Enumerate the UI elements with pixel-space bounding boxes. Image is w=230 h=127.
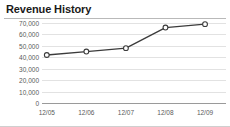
revenue-history-widget: Revenue History 010,00020,00030,00040,00…	[0, 0, 230, 127]
x-axis-tick-label: 12/06	[78, 109, 95, 116]
chart-plot-area: 010,00020,00030,00040,00050,00060,00070,…	[0, 18, 230, 126]
data-point-marker[interactable]	[124, 46, 129, 51]
widget-bottom-divider	[0, 126, 230, 127]
x-axis-tick-label: 12/07	[118, 109, 135, 116]
x-axis-tick-label: 12/09	[197, 109, 214, 116]
line-chart: 010,00020,00030,00040,00050,00060,00070,…	[0, 18, 230, 126]
data-point-marker[interactable]	[203, 22, 208, 27]
y-axis-tick-label: 0	[35, 100, 39, 107]
y-axis-tick-label: 50,000	[19, 43, 39, 50]
y-axis-tick-label: 20,000	[19, 77, 39, 84]
x-axis-tick-label: 12/05	[39, 109, 56, 116]
data-point-marker[interactable]	[44, 53, 49, 58]
y-axis-tick-label: 10,000	[19, 89, 39, 96]
y-axis-tick-label: 70,000	[19, 20, 39, 27]
x-axis-tick-label: 12/08	[157, 109, 174, 116]
y-axis-tick-label: 40,000	[19, 54, 39, 61]
data-point-marker[interactable]	[84, 49, 89, 54]
y-axis-tick-label: 30,000	[19, 66, 39, 73]
data-point-marker[interactable]	[163, 25, 168, 30]
y-axis-tick-label: 60,000	[19, 31, 39, 38]
page-title: Revenue History	[6, 3, 91, 15]
